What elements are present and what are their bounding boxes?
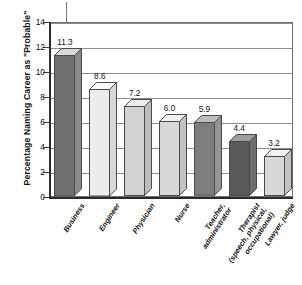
y-tick-label: 14 bbox=[23, 17, 45, 27]
y-tick-mark bbox=[43, 122, 49, 123]
bar-3d-shape bbox=[124, 99, 152, 196]
bar[interactable]: 5.9 bbox=[194, 115, 215, 196]
y-tick-label: 0 bbox=[23, 192, 45, 202]
plot-area: 11.38.67.26.05.94.43.2 bbox=[49, 22, 293, 197]
bar[interactable]: 11.3 bbox=[54, 48, 75, 196]
bar-3d-shape bbox=[229, 134, 257, 196]
gridline bbox=[50, 98, 292, 99]
gridline bbox=[50, 23, 292, 24]
bar-chart: Percentage Naming Career as "Probable" 1… bbox=[0, 0, 302, 285]
y-tick-mark bbox=[43, 97, 49, 98]
gridline bbox=[50, 73, 292, 74]
bar-value-label: 8.6 bbox=[94, 72, 105, 81]
y-axis-line bbox=[49, 22, 51, 198]
y-tick-mark bbox=[43, 172, 49, 173]
bar-3d-shape bbox=[194, 115, 222, 196]
y-tick-label: 2 bbox=[23, 167, 45, 177]
bar-3d-shape bbox=[54, 48, 82, 196]
y-tick-mark bbox=[43, 72, 49, 73]
bar-3d-shape bbox=[264, 149, 292, 196]
bar[interactable]: 8.6 bbox=[89, 82, 110, 197]
bar-value-label: 7.2 bbox=[129, 89, 140, 98]
gridline bbox=[50, 48, 292, 49]
bar-value-label: 6.0 bbox=[164, 104, 175, 113]
y-tick-label: 10 bbox=[23, 67, 45, 77]
y-tick-mark bbox=[43, 197, 49, 198]
y-tick-mark bbox=[43, 147, 49, 148]
y-tick-mark bbox=[43, 47, 49, 48]
y-tick-mark bbox=[43, 22, 49, 23]
bar-3d-shape bbox=[89, 82, 117, 197]
bar-value-label: 11.3 bbox=[57, 38, 72, 47]
bar[interactable]: 3.2 bbox=[264, 149, 285, 196]
bar-3d-shape bbox=[159, 114, 187, 196]
y-tick-label: 12 bbox=[23, 42, 45, 52]
y-tick-label: 6 bbox=[23, 117, 45, 127]
bar[interactable]: 7.2 bbox=[124, 99, 145, 196]
bar-value-label: 4.4 bbox=[234, 124, 245, 133]
bar[interactable]: 6.0 bbox=[159, 114, 180, 196]
y-tick-label: 4 bbox=[23, 142, 45, 152]
bar[interactable]: 4.4 bbox=[229, 134, 250, 196]
x-axis-line bbox=[49, 197, 293, 199]
bar-value-label: 3.2 bbox=[268, 139, 279, 148]
bar-value-label: 5.9 bbox=[199, 105, 210, 114]
y-tick-label: 8 bbox=[23, 92, 45, 102]
